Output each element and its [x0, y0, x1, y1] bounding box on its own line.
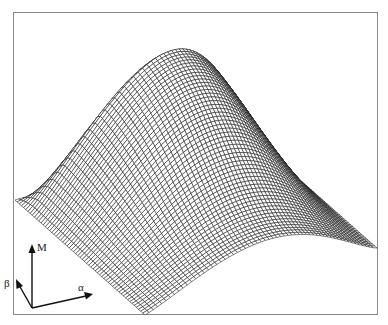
alpha-axis-label: α	[78, 281, 84, 293]
beta-axis-label: β	[4, 277, 10, 289]
surface-plot-figure: M β α	[0, 0, 388, 325]
m-axis-label: M	[37, 241, 47, 253]
